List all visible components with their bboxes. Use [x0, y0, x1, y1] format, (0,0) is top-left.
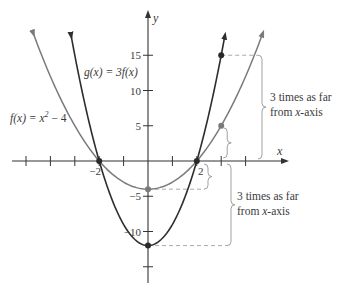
chart: x y −22 15105−5−10 g(x) = 3f(x) f(x) = x… — [0, 0, 341, 293]
data-point — [145, 186, 151, 192]
guide-lines — [148, 55, 258, 245]
data-point — [145, 243, 151, 249]
data-point — [218, 52, 224, 58]
y-tick-label: −10 — [124, 226, 142, 238]
annotation-bottom-line2: from x-axis — [237, 205, 290, 217]
data-point — [96, 158, 102, 164]
brace-top-large — [258, 55, 266, 159]
y-axis-label: y — [152, 11, 159, 25]
y-tick-label: 15 — [130, 49, 142, 61]
annotation-top-line1: 3 times as far — [270, 91, 332, 103]
y-tick-label: 10 — [130, 85, 142, 97]
x-tick-label: 2 — [198, 165, 204, 177]
y-tick-label: 5 — [136, 120, 142, 132]
annotation-top-line2: from x-axis — [270, 106, 323, 118]
brace-bottom-large — [227, 164, 235, 246]
series-label-f: f(x) = x2 − 4 — [10, 110, 67, 125]
x-axis-label: x — [276, 144, 283, 158]
braces — [204, 55, 266, 245]
x-tick-label: −2 — [89, 165, 101, 177]
annotation-bottom-line1: 3 times as far — [237, 190, 299, 202]
y-tick-label: −5 — [129, 190, 141, 202]
brace-top-small — [223, 128, 231, 158]
brace-bottom-small — [204, 164, 212, 189]
data-point — [194, 158, 200, 164]
series-label-g: g(x) = 3f(x) — [84, 66, 138, 79]
